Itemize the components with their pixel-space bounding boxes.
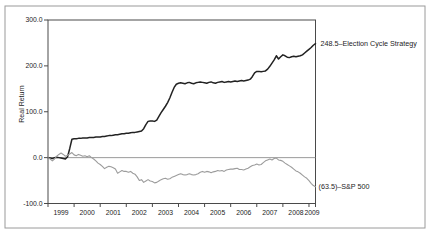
y-tick-label: 100.0 [25,108,42,115]
election-cycle-vs-sp500-chart: 300.0200.0100.00.0-100.01999200020012002… [0,0,429,236]
x-tick-label: 2007 [262,209,277,216]
election-cycle-line [48,44,316,159]
plot-area: 300.0200.0100.00.0-100.01999200020012002… [23,16,320,215]
x-tick-label: 2006 [236,209,251,216]
plot-box [48,20,316,204]
y-tick-label: -100.0 [23,200,42,207]
y-tick-label: 0.0 [33,154,43,161]
x-tick-label: 2009 [304,209,319,216]
y-axis-title: Real Return [18,85,25,122]
x-tick-label: 2004 [184,209,199,216]
chart-figure: 300.0200.0100.00.0-100.01999200020012002… [0,0,429,236]
series-label-sp500: (63.5)–S&P 500 [319,182,370,191]
x-tick-label: 2001 [106,209,121,216]
x-tick-label: 1999 [53,209,68,216]
x-tick-label: 2005 [210,209,225,216]
x-tick-label: 2003 [158,209,173,216]
x-tick-label: 2002 [132,209,147,216]
x-tick-label: 2000 [80,209,95,216]
series-label-ecs: 248.5–Election Cycle Strategy [321,39,418,48]
y-tick-label: 300.0 [25,16,42,23]
x-tick-label: 2008 [288,209,303,216]
y-tick-label: 200.0 [25,62,42,69]
